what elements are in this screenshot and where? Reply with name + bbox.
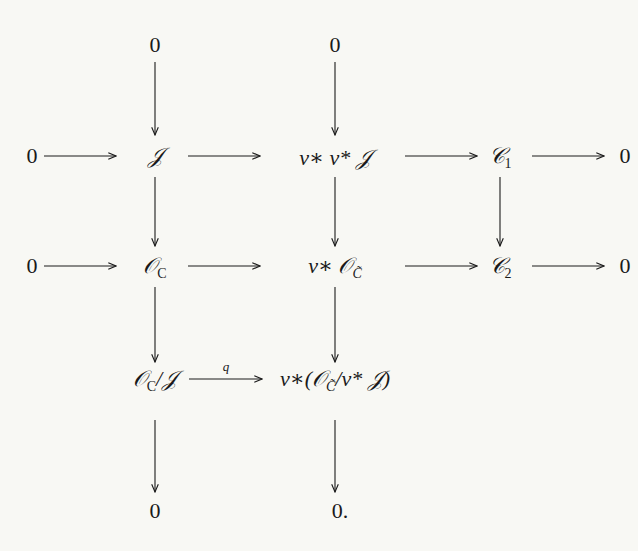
zero-right-1: 0 [620,145,631,167]
arrow-label-q: q [223,359,230,375]
zero-top-1: 0 [150,34,161,56]
zero-right-2: 0 [620,255,631,277]
node-C1: 𝒞1 [489,145,512,171]
node-v-star-v-star-I: v∗ v* 𝒥 [299,147,370,169]
node-I: 𝒥 [148,145,163,167]
node-v-star-O-Ctilde: v∗ 𝒪C̃ [308,255,362,281]
node-C2: 𝒞2 [489,255,512,281]
node-O-C: 𝒪C [143,255,166,281]
zero-bottom-1: 0 [150,500,161,522]
node-O-C-mod-I: 𝒪C/𝒥 [133,368,177,394]
zero-top-2: 0 [330,34,341,56]
zero-left-1: 0 [27,145,38,167]
zero-bottom-2: 0. [332,500,349,522]
zero-left-2: 0 [27,255,38,277]
node-v-star-quotient: v∗(𝒪C̃/v* 𝒥) [280,368,390,394]
